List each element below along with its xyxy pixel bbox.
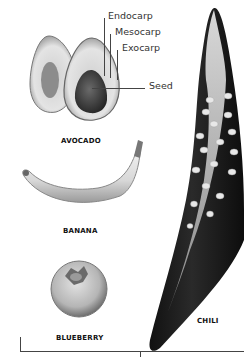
leader-mesocarp (110, 34, 111, 78)
label-mesocarp: Mesocarp (115, 27, 161, 37)
bracket-baseline (20, 351, 244, 352)
fruit-label-avocado: AVOCADO (61, 137, 101, 145)
label-endocarp: Endocarp (108, 11, 153, 21)
fruit-label-banana: BANANA (63, 227, 98, 235)
leader-exocarp (117, 50, 118, 80)
fruit-label-chili: CHILI (197, 317, 219, 325)
leader-endocarp (104, 18, 105, 76)
leader-seed (92, 88, 145, 89)
avocado-illustration (0, 0, 244, 357)
fruit-label-blueberry: BLUEBERRY (56, 334, 103, 342)
bracket-left-tick (20, 337, 21, 351)
label-exocarp: Exocarp (122, 43, 160, 53)
label-seed: Seed (149, 81, 173, 91)
bracket-center-tick (140, 351, 141, 357)
